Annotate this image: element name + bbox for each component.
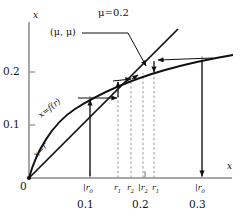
cobweb-diagram: μ=0.2 (μ, μ) x x 0 0.2 0.1 0.1 0.2 0.3 |… xyxy=(0,0,241,216)
solid-droplines xyxy=(90,56,202,178)
cobweb-arrows-right xyxy=(154,58,213,176)
marker-r2-left: r2 xyxy=(127,183,134,194)
y-axis-ticks xyxy=(29,72,35,125)
marker-r1-right-sub: 1 xyxy=(156,188,159,194)
x-tick-label-0.1: 0.1 xyxy=(77,198,94,210)
marker-r0-right-sub: 0 xyxy=(202,188,205,194)
origin-label: 0 xyxy=(20,180,27,192)
fixed-point-annotation: (μ, μ) xyxy=(50,26,76,37)
x-tick-label-0.2: 0.2 xyxy=(132,198,149,210)
x-axis-label: x xyxy=(227,161,232,171)
y-tick-label-0.2: 0.2 xyxy=(3,65,20,77)
marker-r2-right-sub: 2 xyxy=(145,188,148,194)
y-tick-label-0.1: 0.1 xyxy=(3,118,20,130)
marker-r0-right: |r0 xyxy=(195,183,205,194)
plot-title: μ=0.2 xyxy=(98,7,129,18)
y-axis-label: x xyxy=(33,10,38,20)
x-tick-label-0.3: 0.3 xyxy=(189,198,206,210)
marker-r1-left-sub: 1 xyxy=(118,188,121,194)
marker-r2-right: |r2 xyxy=(138,183,148,194)
marker-r0-left-sub: 0 xyxy=(90,188,93,194)
x-axis-ticks xyxy=(90,171,202,178)
origin-dot xyxy=(27,176,31,180)
marker-r2-left-sub: 2 xyxy=(131,188,134,194)
marker-r0-left: |r0 xyxy=(83,183,93,194)
marker-r1-left: r1 xyxy=(114,183,121,194)
annotation-leader-line xyxy=(82,33,146,66)
marker-r1-right: r1 xyxy=(152,183,159,194)
